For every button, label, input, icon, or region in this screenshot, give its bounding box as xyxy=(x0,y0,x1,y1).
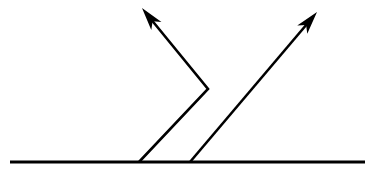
incident-reflected-ray xyxy=(139,18,208,162)
incident-reflected-ray-group xyxy=(139,8,208,162)
ray-diagram-canvas xyxy=(0,0,372,176)
rays-group xyxy=(139,8,317,162)
straight-ray xyxy=(190,24,307,162)
straight-ray-group xyxy=(190,12,317,162)
ray-diagram-svg xyxy=(0,0,372,176)
